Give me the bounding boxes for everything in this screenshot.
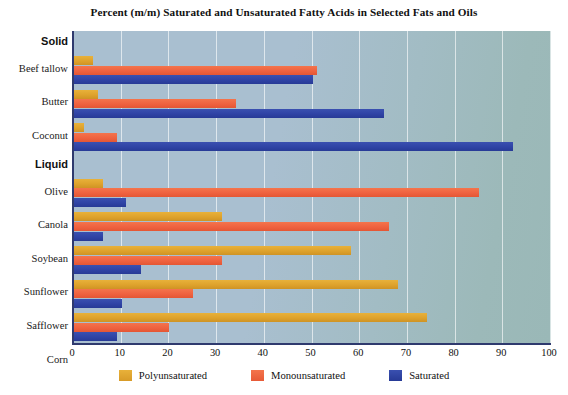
bar-butter-mono bbox=[74, 99, 236, 108]
chart-legend: PolyunsaturatedMonounsaturatedSaturated bbox=[0, 370, 568, 381]
category-label-beef-tallow: Beef tallow bbox=[2, 63, 68, 74]
x-tick-label: 60 bbox=[338, 347, 378, 358]
bar-beef-tallow-mono bbox=[74, 66, 317, 75]
gridline bbox=[359, 31, 360, 343]
fatty-acid-bar-chart: Percent (m/m) Saturated and Unsaturated … bbox=[0, 0, 568, 395]
x-axis-line bbox=[72, 343, 551, 345]
legend-swatch-mono-icon bbox=[251, 370, 264, 381]
bar-butter-sat bbox=[74, 109, 384, 118]
bar-coconut-mono bbox=[74, 133, 117, 142]
bar-canola-sat bbox=[74, 232, 103, 241]
bar-olive-sat bbox=[74, 198, 126, 207]
group-header-liquid: Liquid bbox=[2, 158, 68, 170]
gridline bbox=[550, 31, 551, 343]
bar-soybean-mono bbox=[74, 256, 222, 265]
bar-sunflower-mono bbox=[74, 289, 193, 298]
x-tick-label: 80 bbox=[434, 347, 474, 358]
category-label-canola: Canola bbox=[2, 219, 68, 230]
legend-item-poly: Polyunsaturated bbox=[119, 370, 207, 381]
bar-coconut-poly bbox=[74, 123, 84, 132]
x-tick-label: 0 bbox=[52, 347, 92, 358]
x-tick-label: 50 bbox=[291, 347, 331, 358]
x-tick-label: 90 bbox=[481, 347, 521, 358]
category-label-butter: Butter bbox=[2, 96, 68, 107]
gridline bbox=[407, 31, 408, 343]
bar-sunflower-poly bbox=[74, 280, 398, 289]
legend-label-sat: Saturated bbox=[409, 370, 449, 381]
x-tick-label: 100 bbox=[529, 347, 568, 358]
x-tick-label: 70 bbox=[386, 347, 426, 358]
legend-swatch-sat-icon bbox=[389, 370, 402, 381]
bar-canola-poly bbox=[74, 212, 222, 221]
x-tick-label: 30 bbox=[195, 347, 235, 358]
bar-soybean-poly bbox=[74, 246, 351, 255]
category-label-safflower: Safflower bbox=[2, 320, 68, 331]
category-label-olive: Olive bbox=[2, 186, 68, 197]
bar-olive-poly bbox=[74, 179, 103, 188]
legend-swatch-poly-icon bbox=[119, 370, 132, 381]
bar-beef-tallow-poly bbox=[74, 56, 93, 65]
x-tick-label: 10 bbox=[100, 347, 140, 358]
bar-safflower-mono bbox=[74, 323, 169, 332]
bar-safflower-poly bbox=[74, 313, 427, 322]
plot-area bbox=[72, 31, 551, 343]
bar-beef-tallow-sat bbox=[74, 75, 313, 84]
group-header-solid: Solid bbox=[2, 35, 68, 47]
legend-item-mono: Monounsaturated bbox=[251, 370, 345, 381]
bar-sunflower-sat bbox=[74, 299, 122, 308]
bar-butter-poly bbox=[74, 90, 98, 99]
bar-coconut-sat bbox=[74, 142, 513, 151]
bar-olive-mono bbox=[74, 188, 479, 197]
gridline bbox=[502, 31, 503, 343]
category-label-soybean: Soybean bbox=[2, 253, 68, 264]
category-label-coconut: Coconut bbox=[2, 130, 68, 141]
category-label-column: SolidBeef tallowButterCoconutLiquidOlive… bbox=[0, 31, 68, 343]
legend-label-mono: Monounsaturated bbox=[271, 370, 345, 381]
legend-item-sat: Saturated bbox=[389, 370, 449, 381]
bar-canola-mono bbox=[74, 222, 389, 231]
legend-label-poly: Polyunsaturated bbox=[139, 370, 207, 381]
category-label-sunflower: Sunflower bbox=[2, 286, 68, 297]
gridline bbox=[455, 31, 456, 343]
bar-soybean-sat bbox=[74, 265, 141, 274]
x-tick-label: 40 bbox=[243, 347, 283, 358]
x-tick-label: 20 bbox=[147, 347, 187, 358]
bar-safflower-sat bbox=[74, 332, 117, 341]
chart-title: Percent (m/m) Saturated and Unsaturated … bbox=[0, 6, 568, 18]
